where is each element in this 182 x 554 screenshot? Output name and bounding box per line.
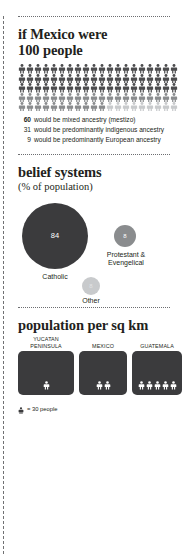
person-icon xyxy=(122,74,130,83)
person-icon xyxy=(18,83,26,92)
person-icon xyxy=(82,93,90,102)
legend-value: 31 xyxy=(18,126,34,134)
person-icon xyxy=(50,74,58,83)
person-icon xyxy=(154,93,162,102)
pictogram-legend: 60would be mixed ancestry (mestizo)31wou… xyxy=(18,116,176,144)
density-box xyxy=(132,351,182,395)
person-icon xyxy=(74,74,82,83)
person-icon xyxy=(170,74,178,83)
person-icon xyxy=(138,64,146,73)
density-box-row: YUCATANPENINSULAMEXICOGUATEMALA xyxy=(18,336,170,395)
legend-label: would be mixed ancestry (mestizo) xyxy=(34,116,176,124)
person-icon xyxy=(162,74,170,83)
person-icon xyxy=(98,74,106,83)
person-icon xyxy=(162,64,170,73)
person-icon xyxy=(26,93,34,102)
person-icon xyxy=(170,93,178,102)
person-icon xyxy=(154,64,162,73)
person-icon xyxy=(82,64,90,73)
legend-row: 60would be mixed ancestry (mestizo) xyxy=(18,116,176,124)
person-icon xyxy=(50,102,58,111)
person-icon xyxy=(98,83,106,92)
person-icon xyxy=(74,102,82,111)
person-icon xyxy=(18,74,26,83)
bubble-1: 8 xyxy=(114,225,136,247)
person-icon xyxy=(34,102,42,111)
person-icon xyxy=(34,74,42,83)
person-icon xyxy=(18,93,26,102)
density-box-item: GUATEMALA xyxy=(132,343,182,395)
person-icon xyxy=(66,93,74,102)
title-line-2: 100 people xyxy=(18,42,83,58)
person-icon xyxy=(26,83,34,92)
person-icon xyxy=(42,83,50,92)
person-icon xyxy=(98,93,106,102)
person-icon xyxy=(18,102,26,111)
person-icon xyxy=(18,400,24,418)
person-icon xyxy=(162,102,170,111)
person-icon xyxy=(106,64,114,73)
bubble-label: Catholic xyxy=(22,273,88,281)
person-icon xyxy=(66,83,74,92)
person-icon xyxy=(162,83,170,92)
section-ancestry-title: if Mexico were 100 people xyxy=(18,26,170,58)
bubble-chart-belief: 84Catholic8Protestant &Evengelical8Other xyxy=(18,199,178,307)
person-icon xyxy=(170,102,178,111)
person-icon xyxy=(58,83,66,92)
person-icon xyxy=(138,93,146,102)
person-icon xyxy=(43,381,50,390)
person-icon xyxy=(50,83,58,92)
density-box-caption: MEXICO xyxy=(92,343,114,349)
person-icon xyxy=(58,93,66,102)
person-icon xyxy=(42,74,50,83)
person-icon xyxy=(74,64,82,73)
person-icon xyxy=(58,64,66,73)
person-icon xyxy=(114,102,122,111)
person-icon xyxy=(146,64,154,73)
legend-row: 31would be predominantly indigenous ance… xyxy=(18,126,176,134)
person-icon xyxy=(146,83,154,92)
left-dashed-rule xyxy=(3,16,4,554)
person-icon xyxy=(82,74,90,83)
bubble-value: 84 xyxy=(51,231,59,240)
person-icon xyxy=(96,381,103,390)
person-icon xyxy=(122,102,130,111)
person-icon xyxy=(122,64,130,73)
person-icon xyxy=(66,64,74,73)
person-icon xyxy=(138,74,146,83)
section-density: population per sq km YUCATANPENINSULAMEX… xyxy=(10,308,170,418)
person-icon xyxy=(130,83,138,92)
legend-label: would be predominantly indigenous ancest… xyxy=(34,126,176,134)
person-icon xyxy=(50,64,58,73)
person-icon xyxy=(90,64,98,73)
person-icon xyxy=(154,381,161,390)
person-icon xyxy=(18,64,26,73)
person-icon xyxy=(34,93,42,102)
person-icon xyxy=(50,93,58,102)
person-icon xyxy=(114,83,122,92)
person-icon xyxy=(146,102,154,111)
density-box-caption: GUATEMALA xyxy=(140,343,174,349)
section-belief-title: belief systems xyxy=(18,164,170,180)
person-icon xyxy=(66,102,74,111)
person-icon xyxy=(106,93,114,102)
person-icon xyxy=(90,74,98,83)
pictogram-grid-ancestry xyxy=(18,64,178,111)
person-icon xyxy=(130,64,138,73)
legend-value: 60 xyxy=(18,116,34,124)
density-box-caption: YUCATANPENINSULA xyxy=(30,336,61,349)
person-icon xyxy=(90,83,98,92)
person-icon xyxy=(114,74,122,83)
person-icon xyxy=(138,381,145,390)
person-icon xyxy=(170,381,177,390)
bubble-label: Protestant &Evengelical xyxy=(94,251,158,268)
section-ancestry: if Mexico were 100 people 60would be mix… xyxy=(10,17,170,145)
bubble-label: Other xyxy=(66,297,116,305)
legend-label: would be predominantly European ancestry xyxy=(34,136,176,144)
person-icon xyxy=(74,93,82,102)
person-icon xyxy=(106,102,114,111)
person-icon xyxy=(26,74,34,83)
person-icon xyxy=(114,64,122,73)
person-icon xyxy=(154,102,162,111)
person-icon xyxy=(154,83,162,92)
